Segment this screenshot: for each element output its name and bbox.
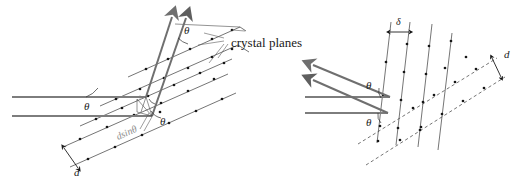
delta-label: δ <box>396 16 401 27</box>
crystal-planes-label: crystal planes <box>231 35 302 50</box>
diagram-canvas: θ θ θ dsinθ d crystal planes <box>0 0 521 183</box>
bragg-diffraction-figure: θ θ θ dsinθ d crystal planes <box>0 0 521 183</box>
d-spacing-label-right: d <box>504 48 510 60</box>
d-spacing-label-left: d <box>74 166 80 178</box>
theta-label-lower-right: θ <box>366 116 372 128</box>
theta-label-upper: θ <box>184 24 190 36</box>
theta-label-lower: θ <box>160 115 166 127</box>
theta-label-upper-right: θ <box>366 79 372 91</box>
theta-label-incident: θ <box>84 100 90 112</box>
